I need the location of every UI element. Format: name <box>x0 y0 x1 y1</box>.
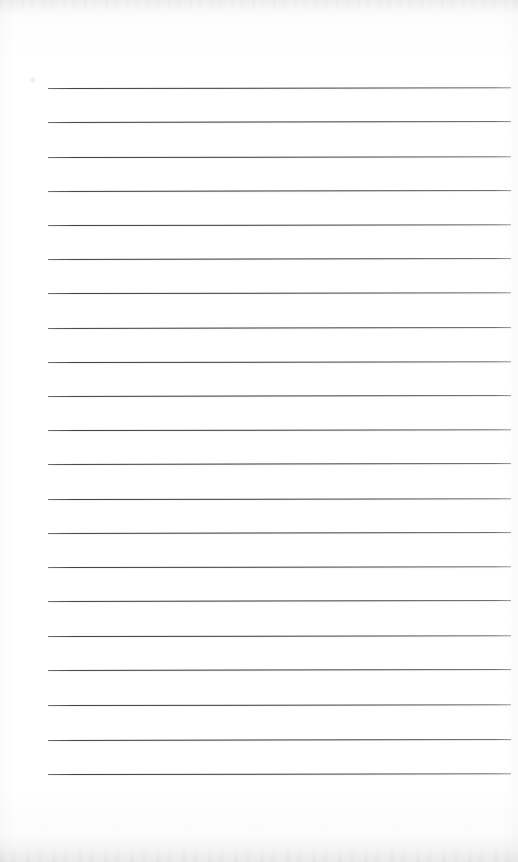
rule-line <box>48 463 511 465</box>
rule-line <box>48 429 511 431</box>
rule-line <box>48 600 511 602</box>
rule-line <box>48 739 511 741</box>
rule-line <box>48 292 511 294</box>
rule-line <box>48 156 511 158</box>
rule-line <box>48 361 511 363</box>
rule-line <box>48 190 511 192</box>
rule-line <box>48 258 511 260</box>
rule-line <box>48 773 511 775</box>
rule-line <box>48 669 511 671</box>
rule-line <box>48 224 511 226</box>
rule-line <box>48 566 511 568</box>
rule-line <box>48 635 511 637</box>
rule-line <box>48 87 511 89</box>
rule-line <box>48 532 511 534</box>
rule-line <box>48 395 511 397</box>
rule-line <box>48 327 511 329</box>
rule-line <box>48 121 511 123</box>
rule-line <box>48 498 511 500</box>
ruled-lines-layer <box>0 0 518 862</box>
rule-line <box>48 704 511 706</box>
scanned-page <box>0 0 518 862</box>
